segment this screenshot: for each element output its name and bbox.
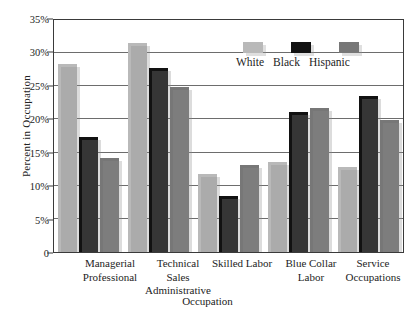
y-tick-label-35: 35% <box>3 14 49 25</box>
x-tick-line2: Sales <box>122 271 234 285</box>
y-tick-label-30: 30% <box>3 47 49 58</box>
bar-black-2 <box>219 196 238 252</box>
bar-hispanic-3 <box>310 108 329 252</box>
bar-white-0 <box>58 64 77 252</box>
legend: White Black Hispanic <box>236 42 359 68</box>
plot-area: White Black Hispanic <box>53 19 404 253</box>
legend-swatch-hispanic <box>339 42 359 53</box>
gridline-20 <box>54 118 403 119</box>
bar-group-1 <box>128 20 189 252</box>
y-tick-label-10: 10% <box>3 181 49 192</box>
bar-white-4 <box>338 167 357 252</box>
bar-white-3 <box>268 162 287 252</box>
x-axis-title: Occupation <box>0 295 415 307</box>
legend-swatches <box>236 42 359 53</box>
y-tick-label-20: 20% <box>3 114 49 125</box>
bar-hispanic-2 <box>240 165 259 252</box>
bar-black-4 <box>359 96 378 252</box>
legend-swatch-white <box>243 42 263 53</box>
bar-white-1 <box>128 43 147 252</box>
legend-label-black: Black <box>273 56 300 68</box>
bar-hispanic-1 <box>170 87 189 252</box>
y-tick-label-0: 0 <box>3 248 49 259</box>
x-tick-line1: Service <box>327 257 415 271</box>
legend-swatch-black <box>291 42 311 53</box>
gridline-25 <box>54 85 403 86</box>
bar-hispanic-0 <box>100 158 119 252</box>
x-tick-label-service-occupations: Service Occupations <box>327 257 415 284</box>
bar-black-1 <box>149 68 168 252</box>
legend-label-hispanic: Hispanic <box>309 56 350 68</box>
bar-chart-figure: Percent in Occupation 35% 30% 25% 20% 15… <box>0 0 415 321</box>
x-tick-line2: Occupations <box>327 271 415 285</box>
y-tick-label-25: 25% <box>3 80 49 91</box>
bar-group-0 <box>58 20 119 252</box>
y-tick-label-15: 15% <box>3 147 49 158</box>
legend-label-white: White <box>236 56 264 68</box>
y-tick-label-5: 5% <box>3 214 49 225</box>
gridline-15 <box>54 152 403 153</box>
bar-white-2 <box>198 174 217 252</box>
bar-black-3 <box>289 112 308 252</box>
bar-black-0 <box>79 137 98 252</box>
legend-labels: White Black Hispanic <box>236 56 359 68</box>
bar-hispanic-4 <box>380 120 399 252</box>
